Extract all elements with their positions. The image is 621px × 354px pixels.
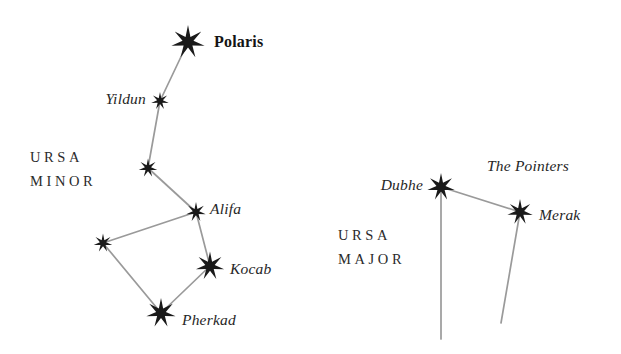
constellation-lines-layer (103, 42, 520, 339)
star-core (437, 183, 445, 191)
constellation-label-line: URSA (338, 228, 405, 243)
annotation-the-pointers: The Pointers (487, 158, 569, 174)
constellation-line (196, 212, 210, 266)
star-core (157, 309, 166, 318)
star-label-alifa: Alifa (210, 201, 241, 217)
star-marker (151, 92, 169, 109)
star-label-kocab: Kocab (230, 261, 271, 277)
constellation-label-line: MAJOR (338, 252, 405, 267)
star-core (145, 165, 151, 171)
constellation-stars-layer (94, 25, 533, 327)
star-label-polaris: Polaris (214, 34, 263, 50)
star-marker (94, 234, 113, 252)
constellation-line (148, 101, 160, 168)
star-core (193, 209, 199, 215)
star-label-yildun: Yildun (105, 91, 146, 107)
constellation-label-ursa-major: URSAMAJOR (338, 228, 405, 266)
constellation-line (441, 187, 520, 212)
star-label-dubhe: Dubhe (381, 177, 423, 193)
star-core (516, 208, 524, 216)
constellation-label-line: MINOR (30, 174, 96, 189)
constellation-line (103, 212, 196, 243)
constellation-line-open (501, 212, 520, 323)
star-marker (171, 25, 204, 57)
star-core (157, 98, 162, 103)
star-marker (507, 199, 532, 224)
star-core (100, 240, 106, 246)
constellation-label-ursa-minor: URSAMINOR (30, 150, 96, 188)
star-core (183, 37, 193, 47)
star-label-pherkad: Pherkad (182, 312, 236, 328)
constellation-line (148, 168, 196, 212)
constellation-line (103, 243, 161, 313)
star-chart-figure: PolarisYildunAlifaKocabPherkadURSAMINORD… (0, 0, 621, 354)
star-core (206, 262, 215, 271)
star-label-merak: Merak (539, 207, 580, 223)
constellation-label-line: URSA (30, 150, 96, 165)
